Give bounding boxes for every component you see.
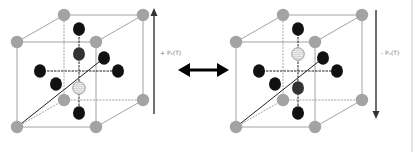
face-atom <box>292 106 304 120</box>
face-atom <box>73 22 85 36</box>
polarization-label-left: + Pₛ(T) <box>160 49 181 56</box>
face-atom <box>269 77 281 91</box>
center-atom <box>292 48 305 61</box>
face-atom <box>317 51 329 65</box>
cube-edge <box>315 100 362 127</box>
face-atom <box>331 64 343 78</box>
face-atom <box>292 22 304 36</box>
polarization-label-right: - Pₛ(T) <box>381 49 399 56</box>
polarization-arrow-up <box>151 8 158 114</box>
face-atom <box>98 51 110 65</box>
corner-atom <box>90 121 102 133</box>
cube-edge <box>236 15 283 42</box>
corner-atom <box>230 121 242 133</box>
corner-atom <box>11 121 23 133</box>
cube-edge <box>96 15 143 42</box>
corner-atom <box>137 94 149 106</box>
corner-atom <box>309 36 321 48</box>
face-atom <box>112 64 124 78</box>
corner-atom <box>356 94 368 106</box>
face-atom <box>253 64 265 78</box>
cube-edge <box>315 15 362 42</box>
switch-double-arrow-icon <box>178 63 229 77</box>
face-atom <box>50 77 62 91</box>
corner-atom <box>356 9 368 21</box>
corner-atom <box>277 9 289 21</box>
corner-atom <box>58 9 70 21</box>
corner-atom <box>90 36 102 48</box>
corner-atom <box>58 94 70 106</box>
corner-atom <box>230 36 242 48</box>
arrowhead-up-icon <box>151 8 158 16</box>
cube-edge <box>17 100 64 127</box>
displaced-face-atom <box>292 81 304 95</box>
corner-atom <box>11 36 23 48</box>
corner-atom <box>277 94 289 106</box>
face-atom <box>73 106 85 120</box>
cube-edge <box>236 100 283 127</box>
unit-cell-left <box>11 9 149 133</box>
axis-y <box>236 58 323 127</box>
center-atom <box>73 82 86 95</box>
displaced-face-atom <box>73 47 85 61</box>
corner-atom <box>137 9 149 21</box>
corner-atom <box>309 121 321 133</box>
face-atom <box>34 64 46 78</box>
polarization-arrow-down <box>373 10 380 119</box>
arrowhead-down-icon <box>373 111 380 119</box>
unit-cell-right <box>230 9 368 133</box>
cube-edge <box>96 100 143 127</box>
polarization-switching-diagram: + Pₛ(T) - Pₛ(T) <box>0 0 417 152</box>
axis-y <box>17 58 104 127</box>
cube-edge <box>17 15 64 42</box>
